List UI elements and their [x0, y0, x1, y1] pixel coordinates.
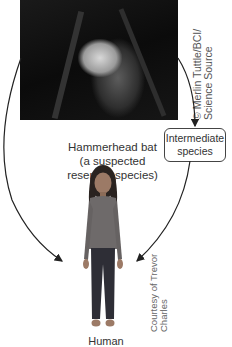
arrows-layer [0, 0, 232, 347]
arrow-bat-to-human [4, 58, 62, 261]
arrow-bat-to-intermediate [178, 58, 195, 126]
arrow-intermediate-to-human [137, 161, 190, 261]
